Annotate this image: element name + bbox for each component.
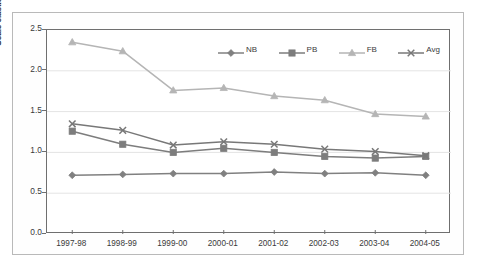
data-point-marker <box>120 141 126 147</box>
plot-svg <box>47 30 451 234</box>
legend-label: FB <box>366 45 377 54</box>
x-axis-tick-labels: 1997-981998-991999-002000-012001-022002-… <box>46 237 450 253</box>
data-point-marker <box>271 149 277 155</box>
series-avg <box>69 121 429 159</box>
data-point-marker <box>119 171 126 178</box>
data-point-marker <box>69 128 75 134</box>
x-tick-label: 1997-98 <box>46 239 96 248</box>
series-pb <box>69 128 429 161</box>
legend-marker-triangle-icon <box>339 44 365 54</box>
data-point-marker <box>321 170 328 177</box>
x-tick-label: 2004-05 <box>400 239 450 248</box>
data-point-marker <box>69 39 76 45</box>
legend-item-pb[interactable]: PB <box>279 44 318 54</box>
data-point-marker <box>220 170 227 177</box>
y-tick-label: 2.5 <box>16 23 42 33</box>
legend-item-fb[interactable]: FB <box>339 44 377 54</box>
plot-area <box>46 29 450 233</box>
data-point-marker <box>170 149 176 155</box>
data-point-marker <box>288 50 294 56</box>
legend-marker-diamond-icon <box>218 44 244 54</box>
series-nb <box>69 169 429 179</box>
legend-label: NB <box>245 45 257 54</box>
y-tick-label: 1.5 <box>16 105 42 115</box>
legend-label: Avg <box>425 45 440 54</box>
x-tick-label: 2002-03 <box>299 239 349 248</box>
data-point-marker <box>372 169 379 176</box>
x-tick-label: 1998-99 <box>97 239 147 248</box>
legend-item-avg[interactable]: Avg <box>398 44 440 54</box>
data-point-marker <box>322 153 328 159</box>
data-point-marker <box>221 145 227 151</box>
chart-figure: Scale elasticity (SE) 0.00.51.01.52.02.5… <box>0 0 477 267</box>
data-point-marker <box>271 169 278 176</box>
y-tick-label: 1.0 <box>16 145 42 155</box>
data-point-marker <box>372 155 378 161</box>
data-point-marker <box>69 172 76 179</box>
x-tick-label: 1999-00 <box>147 239 197 248</box>
data-point-marker <box>228 50 235 57</box>
y-tick-label: 0.5 <box>16 186 42 196</box>
legend-label: PB <box>306 45 318 54</box>
legend-marker-square-icon <box>279 44 305 54</box>
chart-legend: NBPBFBAvg <box>218 41 440 57</box>
y-axis-tick-labels: 0.00.51.01.52.02.5 <box>14 29 42 233</box>
data-point-marker <box>170 170 177 177</box>
y-axis-title: Scale elasticity (SE) <box>0 0 3 78</box>
y-tick-label: 2.0 <box>16 64 42 74</box>
y-tick-label: 0.0 <box>16 227 42 237</box>
data-point-marker <box>422 172 429 179</box>
legend-item-nb[interactable]: NB <box>218 44 257 54</box>
legend-marker-x-icon <box>398 44 424 54</box>
x-tick-label: 2000-01 <box>198 239 248 248</box>
x-tick-label: 2003-04 <box>349 239 399 248</box>
x-tick-label: 2001-02 <box>248 239 298 248</box>
